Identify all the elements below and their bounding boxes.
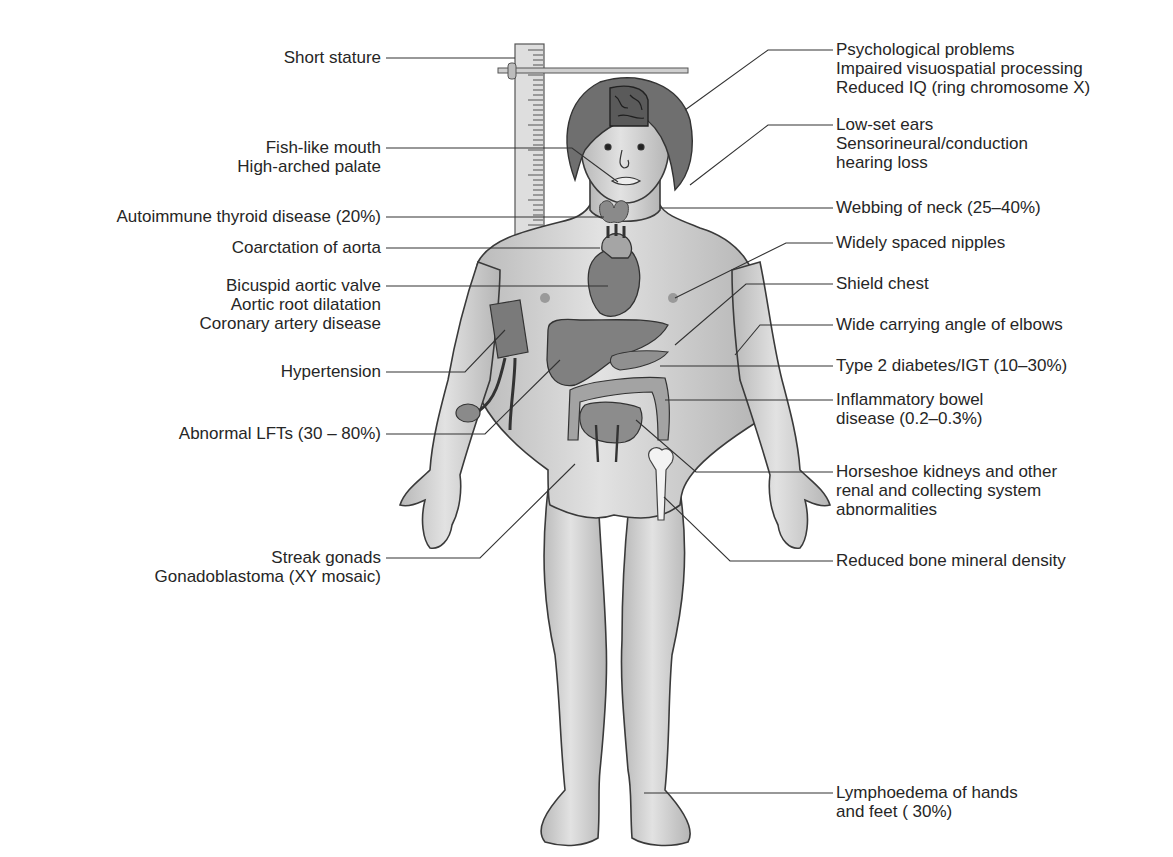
label-bicuspid-aortic-valve: Bicuspid aortic valve Aortic root dilata… (200, 276, 381, 333)
label-psychological: Psychological problems Impaired visuospa… (836, 40, 1090, 97)
label-streak-gonads: Streak gonads Gonadoblastoma (XY mosaic) (155, 548, 381, 586)
label-horseshoe-kidneys: Horseshoe kidneys and other renal and co… (836, 462, 1057, 519)
label-widely-spaced-nipples: Widely spaced nipples (836, 233, 1005, 252)
label-coarctation-aorta: Coarctation of aorta (232, 238, 381, 257)
leader-line-low-set-ears (690, 125, 833, 185)
label-lymphoedema: Lymphoedema of hands and feet ( 30%) (836, 783, 1018, 821)
leader-line-psychological (685, 50, 833, 110)
label-carrying-angle: Wide carrying angle of elbows (836, 315, 1063, 334)
label-abnormal-lfts: Abnormal LFTs (30 – 80%) (179, 424, 381, 443)
label-fish-like-mouth: Fish-like mouth High-arched palate (237, 138, 381, 176)
label-ibd: Inflammatory bowel disease (0.2–0.3%) (836, 390, 983, 428)
brain-icon (610, 86, 648, 126)
label-bone-density: Reduced bone mineral density (836, 551, 1066, 570)
nipple-icon (540, 293, 550, 303)
nipple-icon (668, 293, 678, 303)
label-short-stature: Short stature (284, 48, 381, 67)
label-autoimmune-thyroid: Autoimmune thyroid disease (20%) (116, 207, 381, 226)
label-webbing-neck: Webbing of neck (25–40%) (836, 198, 1041, 217)
label-shield-chest: Shield chest (836, 274, 929, 293)
label-low-set-ears: Low-set ears Sensorineural/conduction he… (836, 115, 1028, 172)
label-hypertension: Hypertension (281, 362, 381, 381)
body-silhouette-icon (400, 87, 830, 845)
label-type2-diabetes: Type 2 diabetes/IGT (10–30%) (836, 356, 1067, 375)
